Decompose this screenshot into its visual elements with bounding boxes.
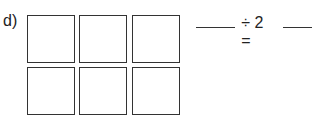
- grid-box-r1c1: [27, 15, 75, 63]
- grid-box-r1c3: [132, 15, 180, 63]
- quotient-blank[interactable]: [283, 27, 312, 28]
- division-equation: ÷ 2 =: [196, 14, 312, 50]
- grid-box-r1c2: [79, 15, 127, 63]
- operator-text: ÷ 2 =: [241, 14, 276, 50]
- grid-box-r2c3: [132, 67, 180, 115]
- grid-box-r2c1: [27, 67, 75, 115]
- dividend-blank[interactable]: [196, 27, 235, 28]
- problem-label: d): [3, 12, 17, 30]
- grid-box-r2c2: [79, 67, 127, 115]
